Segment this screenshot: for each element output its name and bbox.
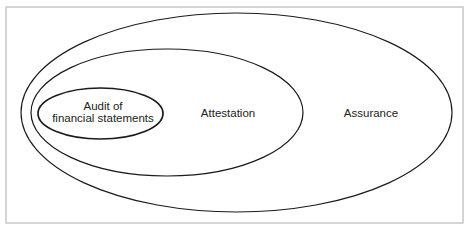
label-audit-line-1: Audit of bbox=[84, 100, 124, 112]
euler-diagram-canvas: Assurance Attestation Audit of financial… bbox=[0, 0, 476, 231]
label-audit-line-2: financial statements bbox=[52, 112, 154, 124]
label-attestation: Attestation bbox=[201, 107, 255, 119]
diagram-container: Assurance Attestation Audit of financial… bbox=[0, 0, 476, 231]
label-assurance: Assurance bbox=[344, 107, 398, 119]
